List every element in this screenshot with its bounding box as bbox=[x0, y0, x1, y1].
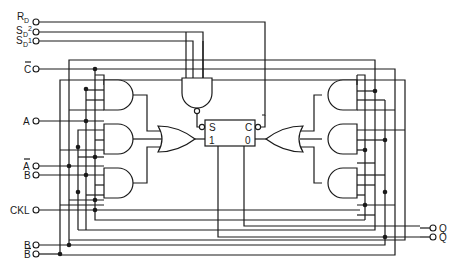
right-and-gate-2 bbox=[328, 124, 357, 154]
output-label-qbar: Q bbox=[439, 232, 447, 243]
input-sd1 bbox=[33, 38, 193, 78]
wire-ff-one-out bbox=[218, 146, 420, 237]
right-and-gate-1 bbox=[328, 80, 357, 110]
output-terminal-q bbox=[430, 225, 436, 231]
junction-dot bbox=[93, 67, 98, 72]
input-ckl bbox=[33, 207, 360, 213]
junction-dot bbox=[363, 203, 368, 208]
input-label-bbar: B bbox=[24, 249, 31, 261]
wire bbox=[301, 147, 322, 183]
input-terminal-sd1 bbox=[33, 38, 39, 44]
left-and-gate-1 bbox=[104, 80, 133, 110]
svg-text:B: B bbox=[24, 249, 31, 260]
left-and-gate-3 bbox=[104, 168, 133, 198]
junction-dot bbox=[76, 145, 81, 150]
input-terminal-abar bbox=[33, 163, 39, 169]
junction-dot bbox=[67, 164, 72, 169]
output-terminal-qbar bbox=[430, 234, 436, 240]
wire bbox=[133, 147, 160, 183]
input-terminal-b2 bbox=[33, 242, 39, 248]
nand-inversion-bubble bbox=[194, 108, 199, 113]
junction-dot bbox=[84, 173, 89, 178]
input-terminal-b1 bbox=[33, 172, 39, 178]
input-label-a: A bbox=[23, 116, 30, 127]
input-label-ckl: CKL bbox=[10, 205, 30, 216]
svg-text:C: C bbox=[24, 64, 31, 75]
left-and-inputs bbox=[60, 100, 104, 150]
input-terminal-cbar bbox=[33, 66, 39, 72]
right-and-gate-3 bbox=[328, 168, 357, 198]
wire bbox=[301, 95, 322, 131]
wire bbox=[261, 115, 265, 127]
junction-dot bbox=[363, 148, 368, 153]
junction-dot bbox=[58, 252, 63, 257]
junction-dot bbox=[84, 87, 89, 92]
input-terminal-a bbox=[33, 118, 39, 124]
input-label-b1: B bbox=[24, 170, 31, 181]
svg-text:S: S bbox=[16, 35, 23, 46]
ff-set-label: S bbox=[209, 122, 216, 133]
junction-dot bbox=[93, 155, 98, 160]
wire bbox=[133, 95, 160, 131]
junction-dot bbox=[383, 235, 388, 240]
ff-zero-label: 0 bbox=[245, 135, 251, 146]
input-terminal-bbar bbox=[33, 251, 39, 257]
input-terminal-rd bbox=[33, 19, 39, 25]
left-and-gate-2 bbox=[104, 124, 133, 154]
junction-dot bbox=[383, 138, 388, 143]
ff-clear-label: C bbox=[245, 122, 252, 133]
ff-one-label: 1 bbox=[209, 135, 215, 146]
clear-bubble bbox=[255, 124, 260, 129]
junction-dot bbox=[383, 190, 388, 195]
junction-dot bbox=[93, 198, 98, 203]
junction-dot bbox=[93, 208, 98, 213]
input-sd2 bbox=[33, 29, 203, 78]
junction-dot bbox=[67, 243, 72, 248]
svg-text:1: 1 bbox=[28, 37, 32, 44]
input-bbar bbox=[33, 251, 60, 257]
left-or-gate bbox=[158, 126, 195, 152]
right-bus bbox=[357, 75, 405, 220]
input-terminal-sd2 bbox=[33, 29, 39, 35]
input-label-cbar: C bbox=[24, 62, 31, 75]
set-bubble bbox=[199, 124, 204, 129]
flip-flop: S C 1 0 bbox=[199, 120, 260, 146]
input-label-rd: R D bbox=[17, 11, 29, 24]
input-rd bbox=[33, 19, 265, 115]
junction-dot bbox=[373, 89, 378, 94]
input-terminal-ckl bbox=[33, 207, 39, 213]
output-qbar: Q bbox=[420, 232, 447, 243]
logic-diagram: S C 1 0 bbox=[0, 0, 459, 270]
junction-dot bbox=[84, 119, 89, 124]
junction-dot bbox=[76, 190, 81, 195]
svg-text:2: 2 bbox=[28, 25, 32, 32]
right-or-gate bbox=[266, 126, 303, 152]
svg-text:D: D bbox=[24, 17, 29, 24]
